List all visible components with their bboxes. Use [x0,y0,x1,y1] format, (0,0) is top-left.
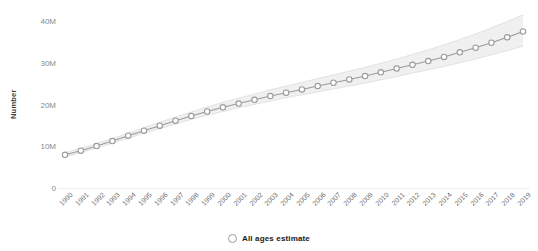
x-axis-tick-label: 2014 [437,191,454,208]
data-point-marker[interactable] [410,62,415,67]
data-point-marker[interactable] [331,80,336,85]
x-axis-tick-label: 2017 [484,191,501,208]
y-axis-tick-label: 40M [12,18,56,26]
data-point-marker[interactable] [362,73,367,78]
data-point-marker[interactable] [347,77,352,82]
plot-svg [58,14,530,189]
x-axis-tick-label: 2019 [516,191,533,208]
data-point-marker[interactable] [426,58,431,63]
data-point-marker[interactable] [94,143,99,148]
x-axis-tick-label: 1993 [105,191,122,208]
line-chart: Number 010M20M30M40M 1990199119921993199… [0,0,538,251]
data-point-marker[interactable] [157,123,162,128]
data-point-marker[interactable] [252,97,257,102]
data-point-marker[interactable] [220,105,225,110]
x-axis-tick-label: 2013 [421,191,438,208]
x-axis-tick-label: 1992 [90,191,107,208]
data-point-marker[interactable] [441,54,446,59]
data-point-marker[interactable] [125,133,130,138]
chart-legend: All ages estimate [0,228,538,248]
data-point-marker[interactable] [78,148,83,153]
data-point-marker[interactable] [520,29,525,34]
data-point-marker[interactable] [141,128,146,133]
y-axis-tick-label: 30M [12,60,56,68]
x-axis-tick-label: 2006 [311,191,328,208]
data-point-marker[interactable] [110,138,115,143]
x-axis-tick-label: 1996 [153,191,170,208]
x-axis-tick-label: 1997 [169,191,186,208]
x-axis-tick-label: 2002 [248,191,265,208]
data-point-marker[interactable] [283,90,288,95]
data-point-marker[interactable] [236,101,241,106]
y-axis-tick-label: 20M [12,102,56,110]
x-axis-tick-label: 2015 [453,191,470,208]
y-axis-tick-labels: 010M20M30M40M [0,0,56,251]
data-point-marker[interactable] [457,50,462,55]
data-point-marker[interactable] [473,45,478,50]
plot-area [58,14,530,189]
x-axis-tick-label: 2003 [263,191,280,208]
data-point-marker[interactable] [315,83,320,88]
x-axis-tick-label: 2004 [279,191,296,208]
x-axis-tick-label: 2012 [405,191,422,208]
legend-item-label: All ages estimate [242,234,310,243]
x-axis-tick-label: 1990 [58,191,75,208]
y-axis-tick-label: 10M [12,143,56,151]
x-axis-tick-label: 1995 [137,191,154,208]
x-axis-tick-label: 1998 [184,191,201,208]
data-point-marker[interactable] [394,66,399,71]
x-axis-tick-label: 2008 [342,191,359,208]
data-point-marker[interactable] [62,152,67,157]
y-axis-tick-label: 0 [12,185,56,193]
confidence-band [65,15,523,157]
x-axis-tick-label: 1994 [121,191,138,208]
x-axis-tick-labels: 1990199119921993199419951996199719981999… [58,189,530,229]
data-point-marker[interactable] [173,118,178,123]
x-axis-tick-label: 2005 [295,191,312,208]
x-axis-tick-label: 2000 [216,191,233,208]
x-axis-tick-label: 2011 [390,191,406,207]
x-axis-tick-label: 1991 [74,191,91,208]
data-point-marker[interactable] [189,113,194,118]
data-point-marker[interactable] [378,70,383,75]
data-point-marker[interactable] [299,87,304,92]
x-axis-tick-label: 2009 [358,191,375,208]
x-axis-tick-label: 1999 [200,191,217,208]
x-axis-tick-label: 2016 [469,191,486,208]
data-point-marker[interactable] [268,93,273,98]
data-point-marker[interactable] [489,40,494,45]
data-point-marker[interactable] [505,35,510,40]
x-axis-tick-label: 2018 [500,191,517,208]
x-axis-tick-label: 2001 [232,191,249,208]
x-axis-tick-label: 2010 [374,191,391,208]
confidence-band-area [65,15,523,157]
x-axis-tick-label: 2007 [326,191,343,208]
data-point-marker[interactable] [204,109,209,114]
legend-open-circle-icon [228,234,237,243]
